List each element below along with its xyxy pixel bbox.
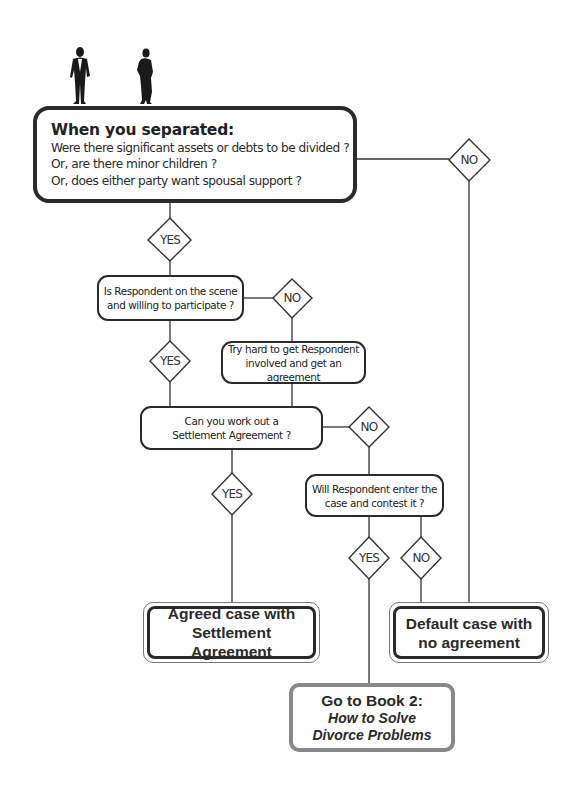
start-question-line: Or, does either party want spousal suppo… [51,173,301,190]
default-case-outcome: Default case with no agreement [389,602,549,663]
respondent-on-scene-box: Is Respondent on the scene and willing t… [97,275,244,321]
couple-figures [70,47,153,104]
outcome-line: Default case with [406,614,533,633]
outcome-line: no agreement [418,633,520,652]
question-line: Settlement Agreement ? [172,428,291,442]
yes-label: YES [160,233,180,247]
no-label: NO [413,551,430,565]
question-line: case and contest it ? [325,496,424,510]
start-question-line: Were there significant assets or debts t… [51,140,349,157]
woman-silhouette-icon [137,49,153,105]
start-title: When you separated: [51,120,234,140]
book2-title: Divorce Problems [312,727,431,744]
book2-title: How to Solve [328,710,416,727]
book2-outcome: Go to Book 2: How to Solve Divorce Probl… [289,683,455,752]
start-question-box: When you separated: Were there significa… [33,106,357,203]
book2-line: Go to Book 2: [321,692,423,710]
yes-label: YES [222,487,242,501]
question-line: Is Respondent on the scene [104,284,238,298]
question-line: Can you work out a [185,414,279,428]
man-silhouette-icon [70,47,90,104]
no-label: NO [284,291,301,305]
outcome-line: Settlement Agreement [150,623,313,661]
contest-question-box: Will Respondent enter the case and conte… [305,474,444,517]
settlement-question-box: Can you work out a Settlement Agreement … [140,406,323,450]
try-hard-box: Try hard to get Respondent involved and … [221,341,366,384]
no-label: NO [361,420,378,434]
no-label: NO [461,153,478,167]
question-line: Try hard to get Respondent [228,342,359,356]
yes-label: YES [359,551,379,565]
agreed-case-outcome: Agreed case with Settlement Agreement [143,602,320,663]
question-line: involved and get an agreement [223,356,364,384]
question-line: and willing to participate ? [107,298,234,312]
yes-label: YES [160,354,180,368]
question-line: Will Respondent enter the [312,482,437,496]
outcome-line: Agreed case with [168,604,296,623]
start-question-line: Or, are there minor children ? [51,156,217,173]
